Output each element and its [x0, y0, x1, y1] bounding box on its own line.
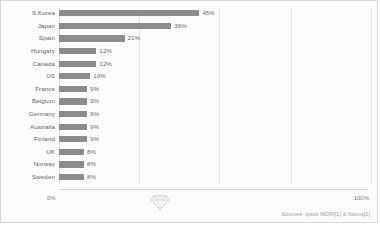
bar: [59, 48, 96, 54]
bar-category-label: Sweden: [1, 174, 59, 180]
x-tick-min-label: 0%: [47, 195, 56, 201]
bar-row: Spain21%: [1, 32, 377, 45]
bar: [59, 10, 199, 16]
x-tick-max-label: 100%: [354, 195, 369, 201]
bar-row: UK8%: [1, 146, 377, 159]
bar-row: Canada12%: [1, 57, 377, 70]
x-axis-line: [59, 189, 369, 190]
bar: [59, 61, 96, 67]
bar-row: US10%: [1, 70, 377, 83]
bar-track: 10%: [59, 70, 377, 83]
bar-category-label: France: [1, 86, 59, 92]
bar-track: 36%: [59, 20, 377, 33]
bar-row: Australia9%: [1, 120, 377, 133]
x-axis-tick-labels: 0% 100%: [1, 195, 377, 205]
bar-value-label: 8%: [87, 161, 96, 167]
bar-category-label: S.Korea: [1, 10, 59, 16]
bar-track: 8%: [59, 171, 377, 184]
bar-row: France9%: [1, 83, 377, 96]
bar: [59, 136, 87, 142]
bar: [59, 73, 90, 79]
bar: [59, 149, 84, 155]
bar-track: 12%: [59, 57, 377, 70]
bar-value-label: 8%: [87, 174, 96, 180]
bar-track: 9%: [59, 120, 377, 133]
bar-value-label: 36%: [174, 23, 186, 29]
bar-track: 45%: [59, 7, 377, 20]
bar-track: 8%: [59, 158, 377, 171]
bar-value-label: 8%: [87, 149, 96, 155]
bar-value-label: 12%: [99, 48, 111, 54]
bar-category-label: US: [1, 73, 59, 79]
bar: [59, 174, 84, 180]
bar-row: S.Korea45%: [1, 7, 377, 20]
bar-value-label: 9%: [90, 86, 99, 92]
bar-category-label: Spain: [1, 35, 59, 41]
bar: [59, 111, 87, 117]
bar-track: 21%: [59, 32, 377, 45]
diamond-icon: [149, 193, 171, 211]
bar-track: 8%: [59, 146, 377, 159]
bar-row: Sweden8%: [1, 171, 377, 184]
bar-row: Japan36%: [1, 20, 377, 33]
bar-row: Germany9%: [1, 108, 377, 121]
bar: [59, 35, 125, 41]
plot-area: S.Korea45%Japan36%Spain21%Hungary12%Cana…: [1, 7, 377, 183]
bar-value-label: 12%: [99, 61, 111, 67]
bar: [59, 23, 171, 29]
bar-value-label: 9%: [90, 111, 99, 117]
bar-category-label: Japan: [1, 23, 59, 29]
bar-row: Finland9%: [1, 133, 377, 146]
bar-row: Hungary12%: [1, 45, 377, 58]
bar-row: Norway8%: [1, 158, 377, 171]
bar: [59, 98, 87, 104]
bar: [59, 86, 87, 92]
bar-category-label: Australia: [1, 124, 59, 130]
bar-value-label: 9%: [90, 98, 99, 104]
bar-value-label: 9%: [90, 136, 99, 142]
bar-value-label: 21%: [128, 35, 140, 41]
bar-track: 12%: [59, 45, 377, 58]
bar-category-label: Finland: [1, 136, 59, 142]
bar-category-label: UK: [1, 149, 59, 155]
bar-category-label: Norway: [1, 161, 59, 167]
bar-rows: S.Korea45%Japan36%Spain21%Hungary12%Cana…: [1, 7, 377, 183]
bar-track: 9%: [59, 83, 377, 96]
bar-row: Belgium9%: [1, 95, 377, 108]
bar-category-label: Belgium: [1, 98, 59, 104]
source-note: Sources: Ipsos MORI[1] & Novus[1]: [282, 211, 370, 217]
bar: [59, 161, 84, 167]
bar: [59, 124, 87, 130]
bar-value-label: 45%: [202, 10, 214, 16]
bar-chart-card: S.Korea45%Japan36%Spain21%Hungary12%Cana…: [0, 0, 378, 223]
bar-track: 9%: [59, 133, 377, 146]
bar-track: 9%: [59, 108, 377, 121]
bar-track: 9%: [59, 95, 377, 108]
bar-category-label: Germany: [1, 111, 59, 117]
bar-category-label: Hungary: [1, 48, 59, 54]
bar-category-label: Canada: [1, 61, 59, 67]
bar-value-label: 9%: [90, 124, 99, 130]
bar-value-label: 10%: [93, 73, 105, 79]
